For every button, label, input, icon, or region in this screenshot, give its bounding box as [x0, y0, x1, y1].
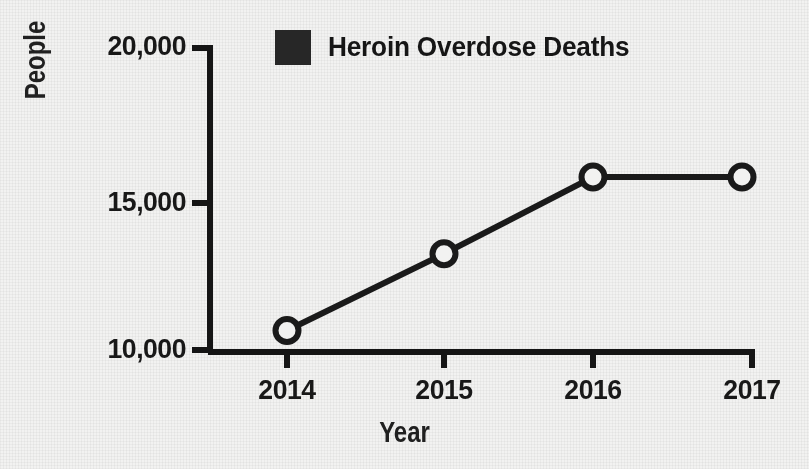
legend-label-heroin-overdose-deaths: Heroin Overdose Deaths: [328, 32, 629, 63]
data-point-2016: [582, 166, 605, 189]
y-tick-label-15000: 15,000: [9, 186, 186, 218]
x-tick-label-2016: 2016: [536, 374, 650, 406]
data-point-2014: [276, 319, 299, 342]
x-tick-label-2017: 2017: [695, 374, 809, 406]
x-tick-label-2015: 2015: [387, 374, 501, 406]
x-tick-label-2014: 2014: [230, 374, 344, 406]
data-point-2017: [731, 166, 754, 189]
chart-legend: Heroin Overdose Deaths: [275, 30, 639, 65]
filled-square-icon: [275, 30, 311, 65]
y-tick-label-10000: 10,000: [9, 333, 186, 365]
x-axis-title: Year: [81, 415, 728, 449]
data-line-heroin-overdose-deaths: [287, 177, 742, 331]
y-axis-title: People: [18, 0, 52, 140]
chart-canvas: 20,000 15,000 10,000 2014 2015 2016 2017…: [0, 0, 809, 469]
data-point-2015: [433, 242, 456, 265]
